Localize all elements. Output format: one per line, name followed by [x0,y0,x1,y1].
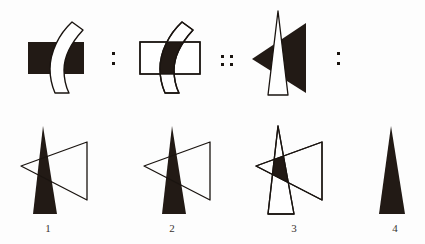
double-colon-dot-2 [230,55,233,58]
narrow-triangle-shape [379,126,405,214]
answer-option-3[interactable] [248,122,340,222]
double-colon-dot-4 [230,63,233,66]
figure-b-graphic [130,8,216,100]
analogy-puzzle-canvas: 1 2 3 [0,0,425,244]
colon-dot-upper [112,52,115,55]
double-colon-dot-3 [221,63,224,66]
narrow-triangle-shape [162,126,186,214]
answer-option-4[interactable] [366,122,425,222]
answer-option-1-graphic [15,122,105,222]
answer-option-2-label: 2 [162,222,182,234]
answer-option-2[interactable] [136,122,226,222]
answer-option-4-graphic [366,122,425,222]
figure-c[interactable] [244,5,324,100]
figure-a[interactable] [20,8,100,100]
figure-b[interactable] [130,8,216,100]
left-pointing-triangle-outline [21,142,87,200]
colon2-dot-lower [337,62,340,65]
colon2-dot-upper [337,52,340,55]
answer-option-3-graphic [248,122,340,222]
answer-option-4-label: 4 [385,222,405,234]
answer-option-1[interactable] [15,122,105,222]
figure-c-graphic [244,5,324,100]
figure-a-graphic [20,8,100,100]
colon-dot-lower [112,62,115,65]
answer-option-1-label: 1 [38,222,58,234]
answer-option-2-graphic [136,122,226,222]
answer-option-3-label: 3 [284,222,304,234]
narrow-triangle-shape [33,126,57,214]
double-colon-dot-1 [221,55,224,58]
